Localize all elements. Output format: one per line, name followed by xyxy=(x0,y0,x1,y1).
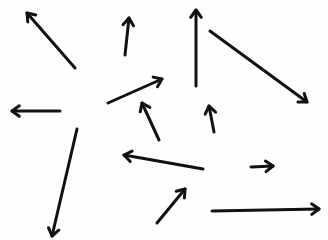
arrow-shaft xyxy=(124,155,203,169)
arrow-up-icon xyxy=(191,10,202,86)
arrow-shaft xyxy=(108,79,162,103)
arrow-up-left-icon xyxy=(140,103,159,140)
arrow-shaft xyxy=(210,31,307,102)
arrow-shaft xyxy=(212,209,319,211)
arrow-up-icon xyxy=(205,106,215,132)
arrow-shaft xyxy=(52,129,77,236)
arrow-left-icon xyxy=(124,151,203,169)
arrow-down-right-icon xyxy=(210,31,307,102)
arrows-canvas xyxy=(0,0,328,240)
arrow-shaft xyxy=(27,13,75,68)
arrow-shaft xyxy=(157,189,185,223)
arrow-up-right-icon xyxy=(157,189,185,223)
arrow-right-icon xyxy=(251,161,273,172)
arrow-diagram xyxy=(0,0,328,240)
arrow-up-right-icon xyxy=(108,77,162,103)
arrow-right-icon xyxy=(212,204,319,215)
arrow-down-icon xyxy=(49,129,77,236)
arrow-left-icon xyxy=(12,106,60,117)
arrow-up-left-icon xyxy=(27,13,75,68)
arrow-up-icon xyxy=(123,18,134,55)
